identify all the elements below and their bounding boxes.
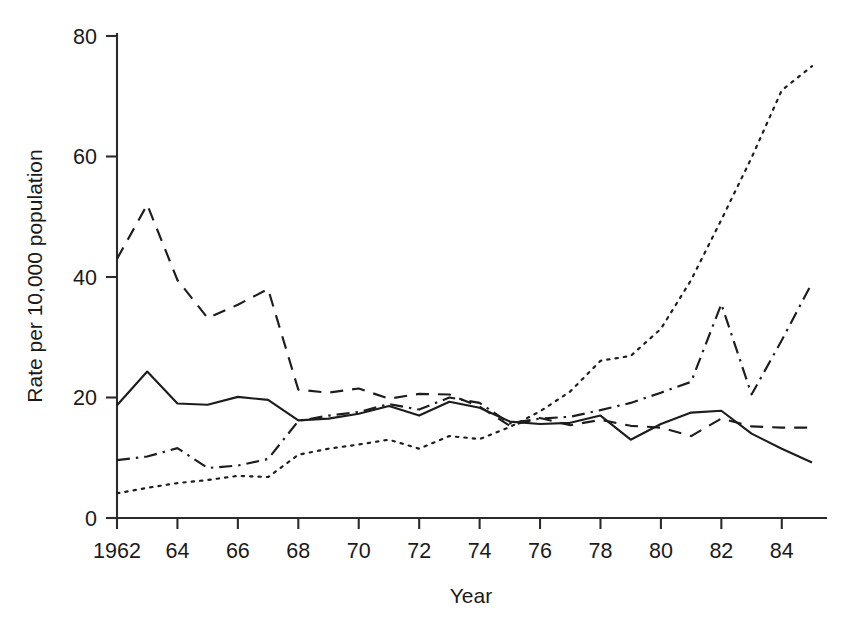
series-line-solid bbox=[117, 372, 812, 463]
chart-canvas: 020406080 19626466687072747678808284 Yea… bbox=[0, 0, 856, 620]
x-tick-label: 64 bbox=[165, 539, 189, 563]
y-tick-label: 20 bbox=[73, 386, 97, 410]
y-tick-marks bbox=[106, 36, 117, 518]
y-tick-label: 40 bbox=[73, 266, 97, 290]
x-tick-label: 68 bbox=[286, 539, 310, 563]
x-tick-label: 78 bbox=[589, 539, 613, 563]
line-chart: 020406080 19626466687072747678808284 Yea… bbox=[0, 0, 856, 620]
y-tick-labels: 020406080 bbox=[73, 25, 97, 531]
x-tick-label: 76 bbox=[528, 539, 552, 563]
x-tick-label: 66 bbox=[226, 539, 250, 563]
x-tick-label: 1962 bbox=[93, 539, 141, 563]
y-axis-title: Rate per 10,000 population bbox=[23, 149, 46, 402]
x-tick-marks bbox=[117, 518, 782, 529]
x-tick-label: 80 bbox=[649, 539, 673, 563]
x-tick-label: 84 bbox=[770, 539, 794, 563]
x-tick-label: 74 bbox=[468, 539, 492, 563]
x-tick-labels: 19626466687072747678808284 bbox=[93, 539, 794, 563]
data-series-group bbox=[117, 66, 812, 493]
x-axis-title: Year bbox=[450, 584, 492, 607]
y-tick-label: 80 bbox=[73, 25, 97, 49]
x-axis: 19626466687072747678808284 bbox=[93, 518, 826, 563]
x-tick-label: 82 bbox=[709, 539, 733, 563]
series-line-dotted bbox=[117, 66, 812, 493]
y-tick-label: 60 bbox=[73, 145, 97, 169]
y-axis: 020406080 bbox=[73, 25, 117, 531]
x-tick-label: 70 bbox=[347, 539, 371, 563]
series-line-dash-dot bbox=[117, 283, 812, 468]
x-tick-label: 72 bbox=[407, 539, 431, 563]
y-tick-label: 0 bbox=[85, 507, 97, 531]
